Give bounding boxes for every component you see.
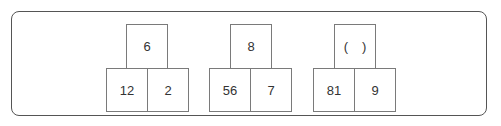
group-3-bottom-right-value: 9 [371,83,378,98]
close-paren: ) [362,39,366,54]
group-3-bottom-left-value: 81 [327,83,341,98]
group-1-bottom-left-value: 12 [120,83,134,98]
group-2-bottom-right-value: 7 [267,83,274,98]
group-2-top-value: 8 [247,39,254,54]
group-2-bottom-right-box: 7 [250,68,292,112]
group-2-top-box: 8 [230,24,272,69]
group-2-bottom-left-value: 56 [223,83,237,98]
group-1-top-value: 6 [143,39,150,54]
group-2-bottom-left-box: 56 [209,68,251,112]
group-1-top-box: 6 [126,24,168,69]
group-1-bottom-right-box: 2 [147,68,189,112]
group-3-top-box-blank: ( ) [334,24,376,69]
group-1-bottom-left-box: 12 [106,68,148,112]
group-3-bottom-right-box: 9 [354,68,396,112]
group-1-bottom-right-value: 2 [164,83,171,98]
group-3-bottom-left-box: 81 [313,68,355,112]
group-3-blank-placeholder: ( ) [344,39,367,54]
open-paren: ( [344,39,348,54]
